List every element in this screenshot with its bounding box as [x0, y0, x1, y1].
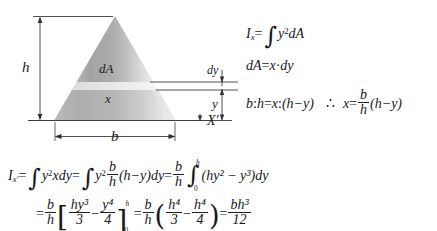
eq5-equals-2: =	[134, 206, 142, 221]
eq5-bt2-denominator: 4	[100, 213, 115, 227]
element-area-label: dA	[99, 62, 113, 75]
right-paren-icon: )	[209, 210, 220, 221]
height-arrowhead-bottom	[38, 114, 43, 121]
eq3-equals-2: =	[349, 96, 357, 111]
left-bracket-icon: [	[57, 211, 68, 223]
eq4-dy-2: dy	[151, 168, 164, 183]
definite-integral-icon: ∫0h	[187, 169, 200, 186]
triangle-upper-region	[77, 16, 154, 82]
eq4-exp-2: 2	[102, 168, 106, 178]
eq3-ratio-right-b: (h−y)	[282, 96, 314, 111]
eq4-integrand: (hy² − y³)dy	[202, 168, 269, 183]
height-arrowhead-top	[38, 17, 43, 24]
integral-icon: ∫	[264, 30, 277, 42]
base-label: b	[111, 129, 119, 144]
eq4-frac1-denominator: h	[107, 175, 118, 189]
eq1-differential: dA	[289, 26, 305, 41]
figure-root: h b dA x dy y X′ Ix=∫y2dA dA=x·dy b:h=x:…	[0, 0, 437, 231]
axis-label: X′	[207, 114, 219, 128]
eq5-bt1-numerator: hy³	[69, 198, 90, 213]
eq5-pt2-numerator: h⁴	[192, 198, 208, 213]
eq3-equals: =	[264, 96, 272, 111]
eq5-result-numerator: bh³	[228, 198, 250, 213]
equation-ix-definition: Ix=∫y2dA	[246, 27, 304, 42]
eq5-minus-1: −	[91, 206, 99, 221]
equation-integration-setup: Ix′=∫y2xdy=∫y2bh(h−y)dy=bh∫0h(hy² − y³)d…	[8, 160, 268, 190]
right-bracket-icon: ]	[116, 215, 127, 227]
height-label: h	[22, 60, 30, 75]
eq3-ratio-left-b: h	[257, 96, 264, 111]
eq5-fraction-b-over-h-2: bh	[143, 198, 154, 228]
eq5-fraction-b-over-h-1: bh	[45, 198, 56, 228]
eq4-equals-1: =	[18, 168, 26, 183]
eq4-equals-3: =	[164, 168, 172, 183]
equation-proportion: b:h=x:(h−y) ∴ x=bh(h−y)	[246, 88, 402, 118]
eq5-bt1-denominator: 3	[69, 213, 90, 227]
eq5-frac1-denominator: h	[45, 213, 56, 227]
eq4-fraction-b-over-h-1: bh	[107, 160, 118, 190]
eq5-frac1-numerator: b	[45, 198, 56, 213]
base-arrowhead-right	[169, 134, 176, 139]
eq5-pt2-denominator: 4	[192, 213, 208, 227]
eq4-factor: (h−y)	[119, 168, 151, 183]
eq5-result-denominator: 12	[228, 213, 250, 227]
eq5-final-result: bh³12	[228, 198, 250, 228]
evaluation-limits: ]0h	[116, 211, 127, 227]
eq2-lhs: dA	[246, 58, 262, 73]
therefore-icon: ∴	[326, 96, 335, 111]
y-arrowhead-bottom	[220, 115, 224, 121]
left-paren-icon: (	[155, 210, 166, 221]
eq3-fraction-b-over-h: bh	[358, 88, 369, 118]
eq4-fraction-b-over-h-2: bh	[173, 160, 184, 190]
eq4-dy-1: dy	[59, 168, 72, 183]
element-width-label: x	[105, 92, 111, 105]
equation-result: =bh[hy³3−y⁴4]0h =bh(h⁴3−h⁴4)=bh³12	[36, 198, 252, 228]
eq5-pt1-denominator: 3	[166, 213, 182, 227]
integral-icon-2: ∫	[28, 172, 41, 184]
eq5-minus-2: −	[183, 206, 191, 221]
eq2-rhs-right: dy	[280, 58, 293, 73]
eq5-equals-3: =	[220, 206, 228, 221]
eq5-bt2-numerator: y⁴	[100, 198, 115, 213]
eq4-limit-lower: 0	[194, 186, 198, 193]
eq5-eval-upper: h	[126, 201, 130, 208]
element-strip-dA	[72, 82, 158, 90]
eq1-equals: =	[255, 26, 263, 41]
integral-icon-3: ∫	[82, 172, 95, 184]
equation-da: dA=x·dy	[246, 59, 294, 73]
base-arrowhead-left	[55, 134, 62, 139]
eq4-frac2-numerator: b	[173, 160, 184, 175]
eq5-pt1-numerator: h⁴	[166, 198, 182, 213]
eq4-frac1-numerator: b	[107, 160, 118, 175]
eq5-equals-1: =	[36, 206, 44, 221]
eq4-equals-2: =	[72, 168, 80, 183]
eq3-ratio-left-a: b	[246, 96, 253, 111]
element-thickness-label: dy	[207, 64, 218, 76]
eq5-bracket-term-1: hy³3	[69, 198, 90, 228]
eq4-limit-upper: h	[196, 160, 200, 167]
eq3-frac-numerator: b	[358, 88, 369, 103]
eq5-paren-term-1: h⁴3	[166, 198, 182, 228]
eq5-paren-term-2: h⁴4	[192, 198, 208, 228]
eq5-bracket-term-2: y⁴4	[100, 198, 115, 228]
eq5-frac2-numerator: b	[143, 198, 154, 213]
eq4-frac2-denominator: h	[173, 175, 184, 189]
eq3-factor: (h−y)	[370, 96, 402, 111]
element-distance-label: y	[212, 97, 218, 110]
eq5-frac2-denominator: h	[143, 213, 154, 227]
eq5-eval-lower: 0	[125, 228, 129, 231]
eq3-frac-denominator: h	[358, 103, 369, 117]
